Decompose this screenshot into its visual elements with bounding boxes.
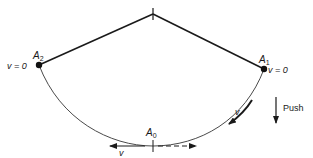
- string-to-A2: [39, 14, 153, 65]
- label-A1-velocity: v = 0: [268, 66, 288, 75]
- label-A2: A2: [33, 51, 44, 62]
- label-A0: A0: [146, 128, 157, 139]
- label-v-tangent: v: [235, 108, 240, 117]
- v-tangent-arrow: [229, 100, 252, 124]
- label-v-bottom: v: [119, 149, 124, 158]
- label-push: Push: [283, 104, 304, 113]
- label-A2-velocity: v = 0: [7, 62, 27, 71]
- string-to-A1: [153, 14, 264, 69]
- bob-A1: [261, 66, 267, 72]
- pendulum-diagram: A2 v = 0 A1 v = 0 A0 v v Push: [0, 0, 313, 158]
- bob-A2: [36, 62, 42, 68]
